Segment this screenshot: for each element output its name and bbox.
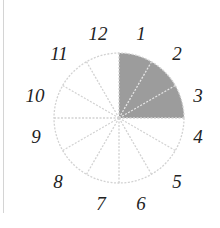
hour-label-7: 7 bbox=[96, 193, 107, 214]
hour-label-4: 4 bbox=[193, 126, 203, 147]
hour-label-9: 9 bbox=[31, 126, 41, 147]
hour-label-6: 6 bbox=[136, 193, 146, 214]
hour-label-11: 11 bbox=[50, 43, 68, 64]
hour-label-12: 12 bbox=[89, 23, 109, 44]
hour-label-2: 2 bbox=[172, 43, 182, 64]
sector-divider bbox=[119, 118, 152, 174]
hour-label-1: 1 bbox=[136, 23, 146, 44]
hour-label-10: 10 bbox=[26, 85, 46, 106]
sector-divider bbox=[87, 62, 120, 118]
sector-divider bbox=[119, 118, 175, 151]
hour-label-3: 3 bbox=[192, 85, 203, 106]
hour-label-8: 8 bbox=[53, 171, 63, 192]
sector-divider bbox=[63, 118, 119, 151]
fraction-circle-diagram: 121234567891011 bbox=[0, 0, 220, 228]
sector-divider bbox=[87, 118, 120, 174]
sector-divider bbox=[63, 86, 119, 119]
hour-label-5: 5 bbox=[172, 171, 182, 192]
